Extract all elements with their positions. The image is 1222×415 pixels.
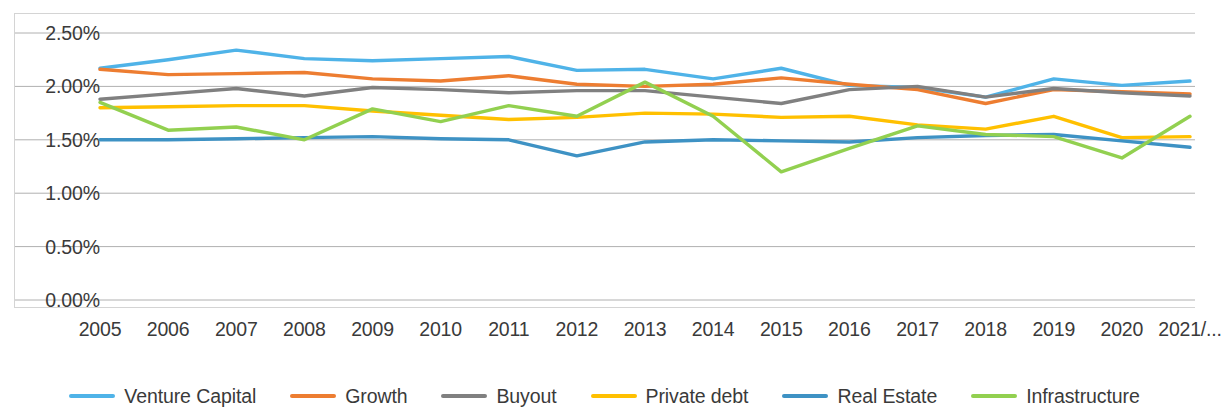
- x-axis-tick-label: 2020: [1101, 318, 1144, 341]
- chart-legend: Venture CapitalGrowthBuyoutPrivate debtR…: [0, 380, 1209, 412]
- series-line-real-estate: [100, 134, 1190, 155]
- legend-item-venture-capital[interactable]: Venture Capital: [69, 385, 256, 408]
- x-axis-tick-label: 2017: [896, 318, 939, 341]
- legend-line-swatch-icon: [971, 394, 1017, 398]
- x-axis-tick-label: 2009: [351, 318, 394, 341]
- legend-item-real-estate[interactable]: Real Estate: [782, 385, 937, 408]
- x-axis-tick-label: 2010: [419, 318, 462, 341]
- x-axis-tick-label: 2013: [624, 318, 667, 341]
- legend-item-label: Infrastructure: [1026, 385, 1139, 408]
- legend-item-label: Venture Capital: [124, 385, 256, 408]
- legend-item-label: Growth: [345, 385, 407, 408]
- legend-item-growth[interactable]: Growth: [290, 385, 407, 408]
- legend-item-private-debt[interactable]: Private debt: [591, 385, 749, 408]
- x-axis-tick-label: 2008: [283, 318, 326, 341]
- legend-line-swatch-icon: [591, 394, 637, 398]
- x-axis-tick-label: 2018: [964, 318, 1007, 341]
- x-axis-tick-label: 2021/...: [1158, 318, 1221, 341]
- legend-line-swatch-icon: [441, 394, 487, 398]
- legend-item-label: Buyout: [496, 385, 556, 408]
- legend-item-infrastructure[interactable]: Infrastructure: [971, 385, 1139, 408]
- legend-item-label: Real Estate: [837, 385, 937, 408]
- x-axis-tick-label: 2019: [1032, 318, 1075, 341]
- x-axis-tick-label: 2016: [828, 318, 871, 341]
- legend-item-label: Private debt: [646, 385, 749, 408]
- x-axis-tick-label: 2011: [488, 318, 529, 341]
- legend-line-swatch-icon: [69, 394, 115, 398]
- x-axis-tick-label: 2005: [79, 318, 122, 341]
- legend-line-swatch-icon: [782, 394, 828, 398]
- legend-line-swatch-icon: [290, 394, 336, 398]
- x-axis-tick-label: 2007: [215, 318, 258, 341]
- x-axis-labels: 2005200620072008200920102011201220132014…: [0, 318, 1209, 354]
- legend-item-buyout[interactable]: Buyout: [441, 385, 556, 408]
- x-axis-tick-label: 2014: [692, 318, 735, 341]
- x-axis-tick-label: 2012: [556, 318, 599, 341]
- x-axis-tick-label: 2015: [760, 318, 803, 341]
- x-axis-tick-label: 2006: [147, 318, 190, 341]
